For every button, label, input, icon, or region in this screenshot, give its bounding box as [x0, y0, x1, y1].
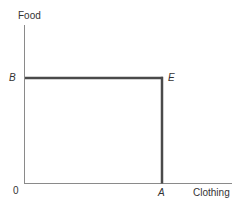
point-e-label: E [168, 73, 175, 83]
point-a-label: A [158, 188, 165, 198]
origin-label: 0 [13, 186, 19, 196]
x-axis-label: Clothing [193, 188, 230, 198]
point-b-label: B [9, 73, 16, 83]
diagram-canvas [0, 0, 247, 207]
y-axis-label: Food [18, 11, 41, 21]
